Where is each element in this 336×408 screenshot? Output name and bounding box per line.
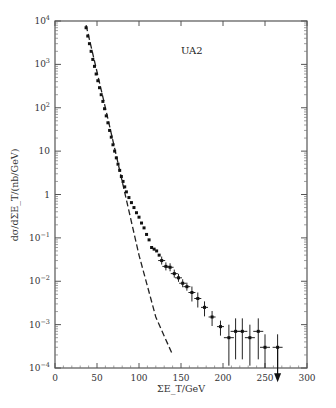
x-tick-label: 100 xyxy=(130,373,147,383)
x-tick-label: 200 xyxy=(214,373,231,383)
y-tick-label: 102 xyxy=(34,101,50,113)
y-tick-label: 10−4 xyxy=(29,361,50,373)
x-tick-label: 150 xyxy=(172,373,189,383)
chart: 05010015020025030010−410−310−210−1110102… xyxy=(0,0,336,408)
qcd-dashed-curve xyxy=(86,25,173,355)
ua2-annotation: UA2 xyxy=(181,45,203,56)
y-tick-label: 1 xyxy=(44,190,50,200)
y-tick-label: 10 xyxy=(39,146,51,156)
y-tick-label: 10−2 xyxy=(29,274,50,286)
x-axis-title: ΣE_T/GeV xyxy=(157,383,205,395)
x-tick-label: 250 xyxy=(256,373,273,383)
y-tick-label: 10−3 xyxy=(29,318,50,330)
y-tick-label: 10−1 xyxy=(29,231,50,243)
x-tick-label: 50 xyxy=(91,373,103,383)
y-tick-label: 103 xyxy=(34,57,50,69)
plot-frame xyxy=(55,21,307,368)
axis-ticks xyxy=(55,21,307,368)
x-tick-label: 300 xyxy=(298,373,315,383)
y-axis-title: dσ/dΣE_T/(nb/GeV) xyxy=(9,149,21,242)
y-tick-label: 104 xyxy=(34,14,50,26)
data-points xyxy=(85,26,283,382)
axis-labels: 05010015020025030010−410−310−210−1110102… xyxy=(29,14,316,383)
x-tick-label: 0 xyxy=(52,373,58,383)
